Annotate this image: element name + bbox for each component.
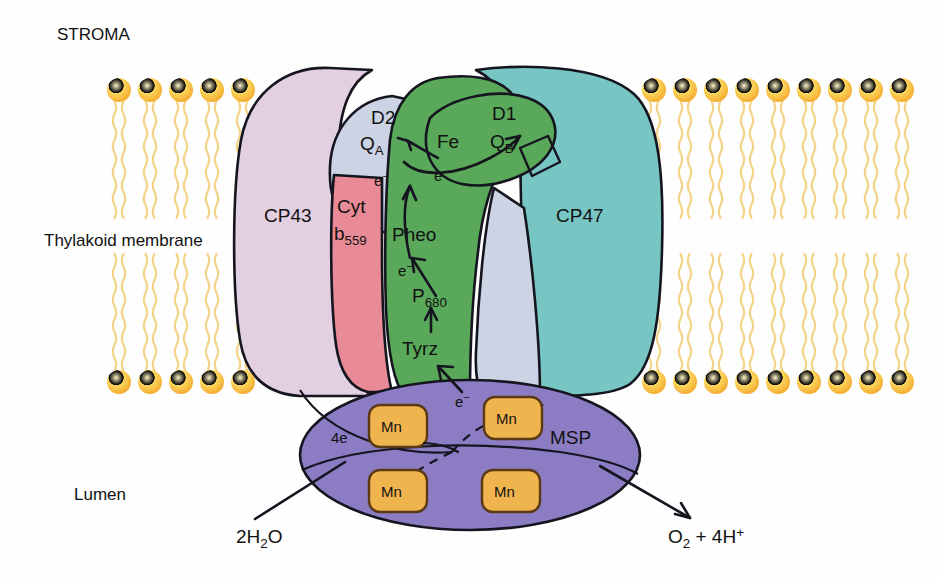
label-lumen: Lumen — [74, 485, 126, 504]
lipid-head-group — [766, 370, 790, 394]
lipid-head-group — [828, 78, 852, 102]
lipid-head-group — [642, 370, 666, 394]
label-d2: D2 — [371, 107, 395, 128]
label-mn: Mn — [496, 410, 517, 427]
lipid-tail — [803, 101, 815, 218]
lipid-head-group — [797, 78, 821, 102]
lipid-tail — [144, 254, 156, 371]
lipid-head-group — [642, 78, 666, 102]
lipid-head-group — [704, 370, 728, 394]
lipid-tail — [144, 101, 156, 218]
lipid-head-group — [231, 370, 255, 394]
label-mn: Mn — [381, 483, 402, 500]
label-pheo: Pheo — [392, 224, 436, 245]
lipid-head-group — [169, 78, 193, 102]
lipid-head-group — [673, 370, 697, 394]
label-mn: Mn — [494, 483, 515, 500]
lipid-tail — [741, 101, 753, 218]
lipid-tail — [865, 254, 877, 371]
lipid-tail — [772, 254, 784, 371]
label-d1: D1 — [492, 103, 516, 124]
lipid-head-group — [735, 370, 759, 394]
label-msp: MSP — [550, 427, 591, 448]
lipid-tail — [834, 254, 846, 371]
label-thylakoid-membrane: Thylakoid membrane — [44, 231, 203, 250]
lipid-head-group — [890, 370, 914, 394]
lipid-head-group — [766, 78, 790, 102]
lipid-head-group — [107, 78, 131, 102]
label-mn: Mn — [381, 418, 402, 435]
lipid-head-group — [828, 370, 852, 394]
lipid-tail — [803, 254, 815, 371]
lipid-head-group — [735, 78, 759, 102]
lipid-head-group — [231, 78, 255, 102]
lipid-head-group — [138, 370, 162, 394]
lipid-tail — [175, 101, 187, 218]
lipid-head-group — [859, 370, 883, 394]
lipid-tail — [679, 101, 691, 218]
lipid-head-group — [704, 78, 728, 102]
figure-canvas: STROMA Thylakoid membrane Lumen CP43 CP4… — [0, 0, 938, 579]
lipid-tail — [896, 254, 908, 371]
label-water-substrate: 2H2O — [236, 526, 282, 551]
lipid-tail — [772, 101, 784, 218]
lipid-tail — [834, 101, 846, 218]
lipid-head-group — [200, 78, 224, 102]
lipid-head-group — [138, 78, 162, 102]
lipid-tail — [113, 254, 125, 371]
lipid-tail — [175, 254, 187, 371]
lipid-head-group — [169, 370, 193, 394]
lipid-tail — [206, 254, 218, 371]
lipid-tail — [741, 254, 753, 371]
lipid-head-group — [890, 78, 914, 102]
lipid-tail — [896, 101, 908, 218]
lipid-tail — [679, 254, 691, 371]
lipid-head-group — [797, 370, 821, 394]
lipid-head-group — [200, 370, 224, 394]
lipid-head-group — [859, 78, 883, 102]
lipid-head-group — [107, 370, 131, 394]
label-cyt: Cyt — [337, 196, 366, 217]
label-oxygen-products: O2 + 4H+ — [668, 525, 744, 551]
lipid-tail — [865, 101, 877, 218]
label-cp47: CP47 — [556, 205, 604, 226]
label-cp43: CP43 — [264, 205, 312, 226]
label-fe: Fe — [437, 131, 459, 152]
label-stroma: STROMA — [57, 25, 130, 44]
photosystem-ii-diagram: STROMA Thylakoid membrane Lumen CP43 CP4… — [0, 0, 938, 579]
lipid-head-group — [673, 78, 697, 102]
lipid-tail — [113, 101, 125, 218]
label-tyrz: Tyrz — [402, 338, 438, 359]
lipid-tail — [710, 101, 722, 218]
lipid-tail — [710, 254, 722, 371]
lipid-tail — [206, 101, 218, 218]
